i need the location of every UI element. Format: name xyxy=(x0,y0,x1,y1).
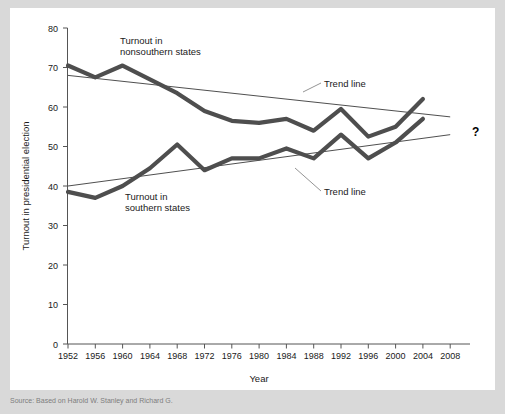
trend-line-nonsouthern xyxy=(68,75,450,116)
nonsouthern-label-line1: Turnout in xyxy=(120,35,162,46)
x-tick-label: 1996 xyxy=(358,351,378,361)
y-tick-label: 20 xyxy=(48,261,58,271)
source-note-strip: Source: Based on Harold W. Stanley and R… xyxy=(10,396,495,412)
annotation-trend-lower: Trend line xyxy=(295,168,366,197)
southern-label-line2: southern states xyxy=(125,202,190,213)
x-tick-label: 1960 xyxy=(113,351,133,361)
y-tick-label: 80 xyxy=(48,24,58,34)
series-line-southern xyxy=(68,119,423,198)
annotation-nonsouthern: Turnout in nonsouthern states xyxy=(120,35,201,57)
leader-line-trend-lower xyxy=(295,168,321,191)
trend-upper-label: Trend line xyxy=(324,78,366,89)
x-tick-label: 1988 xyxy=(304,351,324,361)
x-axis-tick-labels: 1952 1956 1960 1964 1968 1972 1976 1980 … xyxy=(58,351,460,361)
x-tick-label: 1952 xyxy=(58,351,78,361)
annotation-trend-upper: Trend line xyxy=(303,78,366,92)
turnout-line-chart: 80 70 60 50 40 30 20 10 0 Turnout in pre… xyxy=(10,8,495,390)
x-tick-label: 1992 xyxy=(331,351,351,361)
x-tick-label: 1976 xyxy=(222,351,242,361)
y-axis-tick-labels: 80 70 60 50 40 30 20 10 0 xyxy=(48,24,58,350)
x-axis-title: Year xyxy=(249,373,268,384)
chart-figure-card: 80 70 60 50 40 30 20 10 0 Turnout in pre… xyxy=(10,8,495,390)
source-note: Source: Based on Harold W. Stanley and R… xyxy=(10,396,495,406)
y-tick-label: 50 xyxy=(48,142,58,152)
nonsouthern-label-line2: nonsouthern states xyxy=(120,46,201,57)
x-tick-label: 1964 xyxy=(140,351,160,361)
x-tick-label: 1972 xyxy=(194,351,214,361)
x-tick-label: 2008 xyxy=(440,351,460,361)
x-tick-label: 1980 xyxy=(249,351,269,361)
x-tick-label: 1968 xyxy=(167,351,187,361)
y-tick-label: 10 xyxy=(48,300,58,310)
y-tick-label: 0 xyxy=(53,340,58,350)
y-tick-label: 70 xyxy=(48,63,58,73)
y-tick-label: 40 xyxy=(48,182,58,192)
y-tick-label: 30 xyxy=(48,221,58,231)
x-tick-label: 2000 xyxy=(386,351,406,361)
future-question-mark: ? xyxy=(472,125,479,139)
annotation-southern: Turnout in southern states xyxy=(125,191,190,213)
y-axis-title: Turnout in presidential election xyxy=(20,121,31,250)
leader-line-trend-upper xyxy=(303,83,321,92)
y-tick-label: 60 xyxy=(48,103,58,113)
x-tick-label: 2004 xyxy=(413,351,433,361)
x-axis-ticks xyxy=(68,344,450,349)
x-tick-label: 1984 xyxy=(276,351,296,361)
trend-lower-label: Trend line xyxy=(324,186,366,197)
y-axis-ticks xyxy=(63,28,68,344)
southern-label-line1: Turnout in xyxy=(125,191,167,202)
series-line-nonsouthern xyxy=(68,66,423,137)
x-tick-label: 1956 xyxy=(85,351,105,361)
